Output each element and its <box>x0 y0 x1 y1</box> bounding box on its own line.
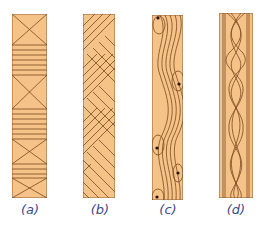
grain-pattern-figure: (a) <box>0 0 269 231</box>
panel-c-label: (c) <box>148 202 188 217</box>
panel-a-strip <box>12 14 47 198</box>
panel-d-strip <box>219 13 253 198</box>
panel-c-strip <box>152 15 183 200</box>
wavy-grain-with-knots-icon <box>152 15 183 200</box>
panel-b-label: (b) <box>80 202 120 217</box>
panel-b-strip <box>83 14 115 198</box>
panel-d-label: (d) <box>216 202 256 217</box>
cross-and-stripe-pattern-icon <box>12 14 47 198</box>
herringbone-pattern-icon <box>83 14 115 198</box>
panel-a-label: (a) <box>10 202 50 217</box>
braided-strands-pattern-icon <box>219 13 253 198</box>
